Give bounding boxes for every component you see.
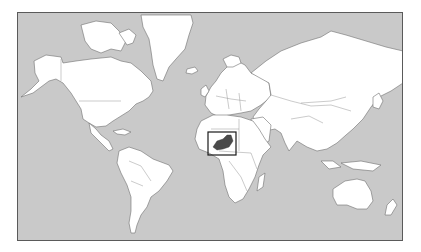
oceania [333, 179, 397, 215]
north-america [21, 21, 153, 151]
south-america [117, 147, 173, 233]
asia [251, 31, 403, 171]
map-canvas [18, 13, 403, 241]
world-map: World locator map [17, 12, 403, 241]
iceland [186, 67, 198, 74]
greenland [141, 15, 193, 81]
